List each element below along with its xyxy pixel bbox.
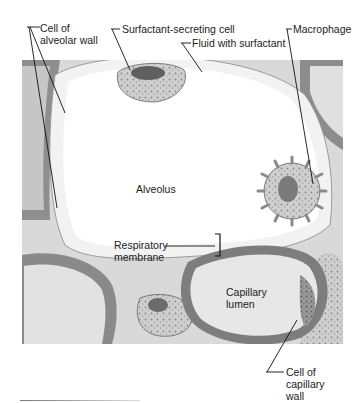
alveolus-illustration <box>0 0 361 403</box>
label-cell-of-alveolar-wall: Cell of alveolar wall <box>40 22 98 46</box>
label-line: alveolar wall <box>40 34 98 46</box>
label-line: Cell of <box>40 22 98 34</box>
label-macrophage: Macrophage <box>293 23 351 35</box>
footer-divider <box>20 400 140 401</box>
label-line: Cell of <box>286 366 325 378</box>
label-line: wall <box>286 390 325 402</box>
label-line: capillary <box>286 378 325 390</box>
label-capillary-lumen: Capillary lumen <box>226 286 267 310</box>
label-line: membrane <box>114 251 168 263</box>
label-line: Respiratory <box>114 239 168 251</box>
diagram-figure: Cell of alveolar wall Surfactant-secreti… <box>0 0 361 403</box>
label-line: Capillary <box>226 286 267 298</box>
label-line: lumen <box>226 298 267 310</box>
label-cell-of-capillary-wall: Cell of capillary wall <box>286 366 325 402</box>
label-fluid-with-surfactant: Fluid with surfactant <box>192 37 285 49</box>
label-surfactant-secreting-cell: Surfactant-secreting cell <box>122 23 235 35</box>
label-respiratory-membrane: Respiratory membrane <box>114 239 168 263</box>
label-alveolus: Alveolus <box>136 183 176 195</box>
